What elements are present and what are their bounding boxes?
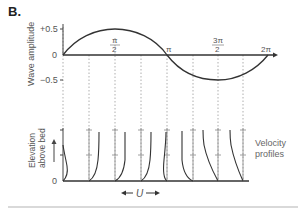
two-pi-label: 2π xyxy=(261,45,271,54)
velocity-profiles xyxy=(63,130,243,181)
ytick-plus-half: +0.5 xyxy=(40,24,58,34)
three-half-pi-numerator: 3π xyxy=(213,36,223,45)
velocity-u-label: U xyxy=(136,188,144,199)
wave-y-axis xyxy=(60,24,63,80)
divider xyxy=(8,206,298,208)
elevation-label-line2: above bed xyxy=(37,128,47,168)
velocity-profile xyxy=(89,132,99,181)
velocity-profile xyxy=(63,145,67,181)
three-half-pi-denominator: 2 xyxy=(215,45,220,54)
half-pi-denominator: 2 xyxy=(112,45,117,54)
velocity-profiles-label: Velocity profiles xyxy=(255,138,286,160)
velocity-profile xyxy=(163,132,167,181)
velocity-profile xyxy=(230,130,243,181)
velocity-profile xyxy=(141,132,151,181)
velocity-profile xyxy=(203,130,218,181)
elevation-axis xyxy=(60,128,63,181)
ytick-minus-half: −0.5 xyxy=(40,75,58,85)
phase-axis-arrow-icon xyxy=(273,53,278,58)
pi-label: π xyxy=(166,45,172,54)
half-pi-numerator: π xyxy=(112,36,118,45)
ytick-zero: 0 xyxy=(52,50,57,60)
wave-velocity-diagram: +0.5 0 −0.5 Wave amplitude π 2 π 3π 2 2π xyxy=(0,0,298,208)
velocity-profile xyxy=(182,131,193,181)
velocity-profile xyxy=(115,132,125,181)
elevation-zero-label: 0 xyxy=(52,176,57,186)
wave-amplitude-label: Wave amplitude xyxy=(26,22,36,86)
elevation-label-line1: Elevation xyxy=(27,133,37,168)
